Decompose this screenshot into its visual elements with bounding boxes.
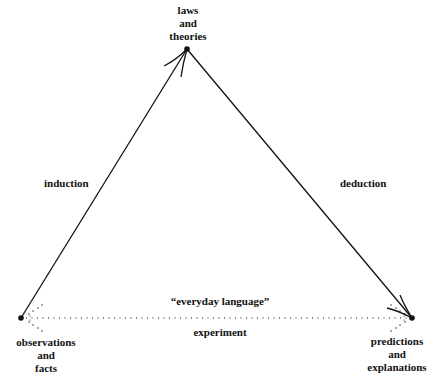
node-label-line: theories <box>157 30 219 43</box>
node-predictions-and-explanations: predictions and explanations <box>357 335 434 374</box>
deduction-arrowhead-icon <box>387 295 412 318</box>
node-laws-and-theories: laws and theories <box>157 4 219 43</box>
node-label-line: predictions <box>357 335 434 348</box>
node-label-line: observations <box>0 336 92 349</box>
node-observations-and-facts: observations and facts <box>0 336 92 375</box>
left-node-dot <box>18 315 24 321</box>
node-label-line: explanations <box>357 361 434 374</box>
right-node-dot <box>409 315 415 321</box>
edge-label-everyday-language: “everyday language” <box>160 295 280 308</box>
edge-label-experiment: experiment <box>160 326 280 339</box>
node-label-line: and <box>157 17 219 30</box>
node-label-line: and <box>357 348 434 361</box>
edge-label-induction: induction <box>44 177 89 190</box>
node-label-line: and <box>0 349 92 362</box>
top-node-dot <box>184 46 190 52</box>
edge-label-deduction: deduction <box>340 177 386 190</box>
node-label-line: laws <box>157 4 219 17</box>
node-label-line: facts <box>0 362 92 375</box>
induction-arrowhead-icon <box>164 49 187 77</box>
left-dotted-fan-icon <box>28 304 42 331</box>
